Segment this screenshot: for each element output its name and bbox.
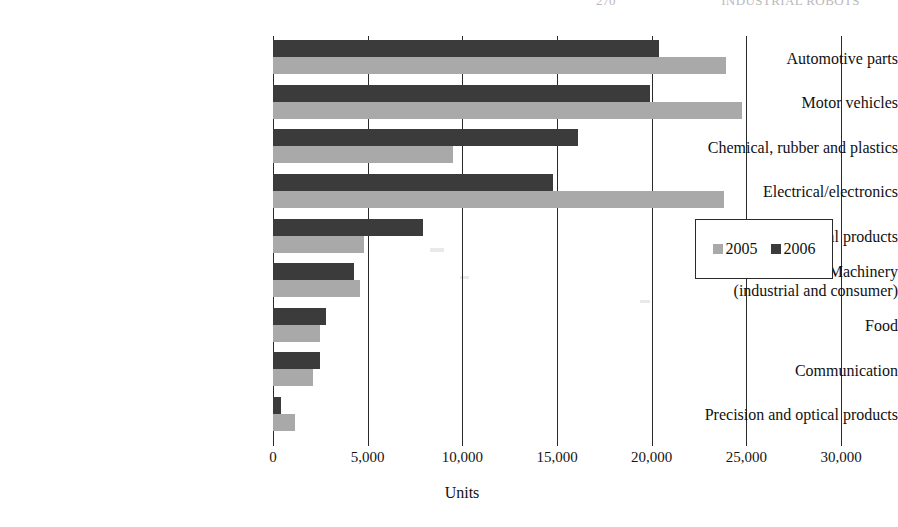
bar-2006 (273, 219, 423, 236)
x-axis-title: Units (0, 484, 898, 502)
legend-label-2005: 2005 (726, 240, 758, 258)
bar-2005 (273, 325, 320, 342)
x-axis-tick (557, 437, 558, 446)
x-axis-title-text: Units (445, 484, 480, 501)
x-axis-tick (368, 437, 369, 446)
x-axis-tick (462, 437, 463, 446)
bar-2006 (273, 129, 578, 146)
legend-swatch-2005-icon (713, 244, 723, 254)
x-axis-tick (841, 437, 842, 446)
bar-2006 (273, 174, 553, 191)
category-label: Motor vehicles (636, 93, 898, 112)
x-axis-tick (652, 437, 653, 446)
legend-label-2006: 2006 (784, 240, 816, 258)
legend-entry-2006: 2006 (771, 240, 816, 258)
bar-2006 (273, 40, 659, 57)
x-axis-tick-label: 20,000 (631, 449, 672, 466)
x-axis-tick-label: 0 (269, 449, 277, 466)
bar-2006 (273, 397, 281, 414)
category-label: Automotive parts (636, 49, 898, 68)
chart-legend: 2005 2006 (695, 219, 833, 279)
category-label: Chemical, rubber and plastics (636, 138, 898, 157)
x-axis-tick-label: 5,000 (351, 449, 385, 466)
x-axis-tick (746, 437, 747, 446)
category-label: Electrical/electronics (636, 182, 898, 201)
bar-2006 (273, 308, 326, 325)
bar-2005 (273, 280, 360, 297)
legend-entry-2005: 2005 (713, 240, 758, 258)
bar-2006 (273, 352, 320, 369)
bar-2005 (273, 236, 364, 253)
x-axis-tick-label: 30,000 (820, 449, 861, 466)
bar-2006 (273, 85, 650, 102)
bar-2006 (273, 263, 354, 280)
bar-chart: Automotive partsMotor vehiclesChemical, … (0, 0, 898, 527)
legend-swatch-2006-icon (771, 244, 781, 254)
x-axis-tick-label: 25,000 (726, 449, 767, 466)
bar-2005 (273, 146, 453, 163)
x-axis-tick (273, 437, 274, 446)
category-label: Precision and optical products (636, 405, 898, 424)
bar-2005 (273, 414, 295, 431)
x-axis-tick-label: 10,000 (442, 449, 483, 466)
category-label: Food (636, 316, 898, 335)
bar-2005 (273, 369, 313, 386)
x-axis-tick-label: 15,000 (536, 449, 577, 466)
category-label: Communication (636, 361, 898, 380)
